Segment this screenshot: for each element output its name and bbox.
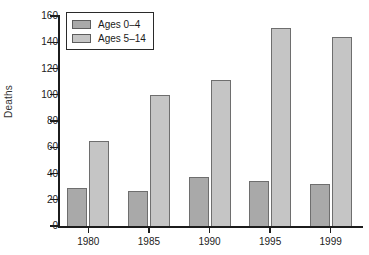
x-tick-mark (148, 227, 149, 233)
bar-1999-series-1 (332, 37, 352, 226)
bar-1985-series-1 (150, 95, 170, 226)
bar-1985-series-0 (128, 191, 148, 226)
legend-swatch-icon (72, 20, 91, 29)
y-tick-label: 80 (14, 115, 58, 126)
x-tick-mark (209, 227, 210, 233)
y-tick-label: 0 (14, 220, 58, 231)
y-axis-title: Deaths (3, 72, 14, 132)
x-tick-mark (330, 227, 331, 233)
y-tick-label: 100 (14, 89, 58, 100)
bar-chart: Deaths 020406080100120140160 19801985199… (0, 0, 369, 255)
x-tick-label: 1980 (58, 236, 118, 247)
legend-item-1: Ages 5–14 (72, 31, 146, 45)
bar-1990-series-0 (189, 177, 209, 226)
legend-item-0: Ages 0–4 (72, 17, 146, 31)
x-axis-line (58, 226, 363, 228)
bar-1980-series-0 (67, 188, 87, 226)
bar-1980-series-1 (89, 141, 109, 226)
y-tick-label: 120 (14, 63, 58, 74)
x-tick-label: 1999 (301, 236, 361, 247)
x-tick-label: 1990 (180, 236, 240, 247)
legend-label: Ages 5–14 (98, 33, 146, 44)
x-tick-mark (88, 227, 89, 233)
y-tick-label: 60 (14, 141, 58, 152)
bar-1995-series-0 (249, 181, 269, 226)
x-tick-label: 1985 (119, 236, 179, 247)
y-tick-label: 140 (14, 36, 58, 47)
bar-1999-series-0 (310, 184, 330, 226)
y-tick-label: 40 (14, 168, 58, 179)
x-tick-label: 1995 (240, 236, 300, 247)
x-tick-mark (269, 227, 270, 233)
legend-label: Ages 0–4 (98, 19, 140, 30)
chart-legend: Ages 0–4Ages 5–14 (66, 12, 154, 50)
bar-1990-series-1 (211, 80, 231, 226)
legend-swatch-icon (72, 34, 91, 43)
y-tick-label: 160 (14, 10, 58, 21)
y-tick-label: 20 (14, 194, 58, 205)
bar-1995-series-1 (271, 28, 291, 226)
